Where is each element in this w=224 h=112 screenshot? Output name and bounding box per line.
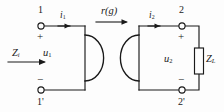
wire-load-top bbox=[184, 26, 199, 48]
label-voltage-2-subscript: 2 bbox=[169, 57, 172, 64]
label-load-impedance-subscript: L bbox=[212, 57, 216, 64]
wire-load-bottom bbox=[184, 74, 199, 90]
label-input-impedance: Zi bbox=[12, 48, 20, 59]
label-plus-right: + bbox=[178, 31, 184, 42]
gyrator-arc-left bbox=[85, 35, 104, 81]
label-gyration-resistance: r(g) bbox=[101, 6, 117, 17]
label-voltage-1-subscript: 1 bbox=[48, 51, 51, 58]
circuit-diagram-canvas: 1 + − 1' i1 i2 Zi u1 r(g) 2 + − 2' u2 ZL bbox=[0, 0, 224, 112]
label-plus-left: + bbox=[37, 31, 43, 42]
label-terminal-1: 1 bbox=[38, 5, 43, 15]
terminal-node-1 bbox=[38, 23, 44, 29]
current-arrow-2-head bbox=[155, 23, 161, 28]
label-current-2-subscript: 2 bbox=[152, 14, 155, 20]
impedance-arrow-head bbox=[39, 59, 46, 65]
gyrator-arc-right bbox=[120, 35, 139, 81]
load-resistor-box bbox=[195, 48, 204, 74]
label-terminal-2: 2 bbox=[179, 5, 184, 15]
label-current-2: i2 bbox=[149, 11, 155, 21]
label-current-1-subscript: 1 bbox=[63, 14, 66, 20]
label-voltage-1: u1 bbox=[43, 48, 52, 59]
current-arrow-1-head bbox=[65, 23, 71, 28]
schematic-svg bbox=[0, 0, 224, 112]
terminal-node-2-prime bbox=[179, 87, 185, 93]
label-terminal-1-prime: 1' bbox=[37, 97, 44, 107]
label-load-impedance: ZL bbox=[206, 54, 215, 65]
label-terminal-2-prime: 2' bbox=[178, 97, 185, 107]
label-input-impedance-subscript: i bbox=[18, 51, 20, 58]
label-minus-right: − bbox=[178, 74, 184, 85]
terminal-node-2 bbox=[179, 23, 185, 29]
gyration-arrow-head bbox=[122, 19, 129, 24]
label-minus-left: − bbox=[37, 74, 43, 85]
label-current-1: i1 bbox=[60, 11, 66, 21]
terminal-node-1-prime bbox=[38, 87, 44, 93]
label-voltage-2: u2 bbox=[164, 54, 173, 65]
